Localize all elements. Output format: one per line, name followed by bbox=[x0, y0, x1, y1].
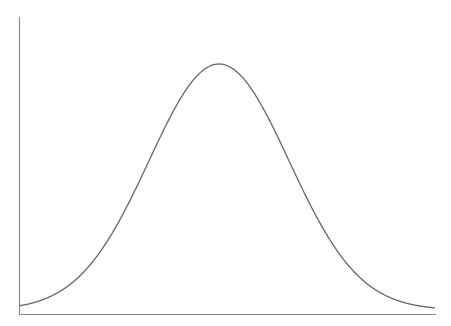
bell-curve-chart bbox=[0, 0, 451, 326]
normal-distribution-curve bbox=[20, 64, 435, 308]
chart-canvas bbox=[0, 0, 451, 326]
